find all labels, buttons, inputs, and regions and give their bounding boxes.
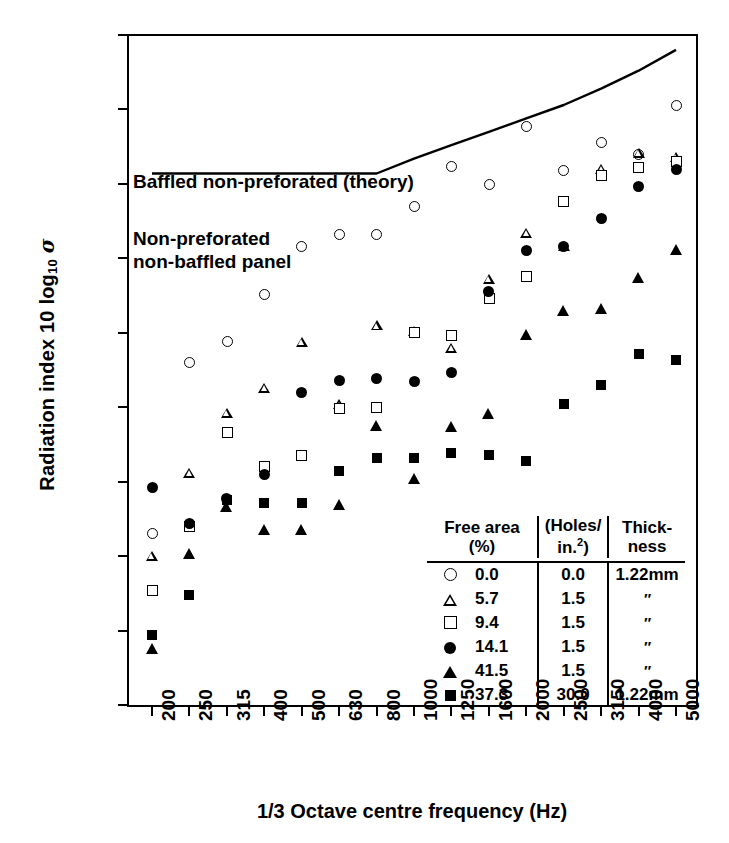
x-tick-500 bbox=[301, 705, 303, 716]
legend-row[interactable]: 5.71.5″ bbox=[427, 587, 685, 611]
data-point-0.0-2000 bbox=[521, 121, 532, 132]
data-point-37.3-5000 bbox=[671, 355, 681, 365]
data-point-37.3-250 bbox=[184, 590, 194, 600]
data-point-0.0-1000 bbox=[409, 201, 420, 212]
legend-free-area-value: 41.5 bbox=[473, 659, 538, 683]
data-point-5.7-1250 bbox=[445, 343, 457, 353]
y-tick--10 bbox=[118, 34, 129, 36]
legend-row[interactable]: 37.330.01.22mm bbox=[427, 683, 685, 707]
data-point-41.5-3150 bbox=[595, 303, 607, 314]
data-point-37.3-2000 bbox=[521, 456, 531, 466]
legend-free-area-value: 37.3 bbox=[473, 683, 538, 707]
data-point-37.3-500 bbox=[297, 498, 307, 508]
open-triangle-icon bbox=[443, 594, 457, 606]
data-point-37.3-3150 bbox=[596, 380, 606, 390]
x-tick-label-500: 500 bbox=[308, 689, 330, 721]
figure-root: Radiation index 10 log10 σ Baffled non-p… bbox=[0, 0, 729, 843]
data-point-9.4-2500 bbox=[558, 196, 569, 207]
data-point-14.1-630 bbox=[334, 375, 345, 386]
x-tick-800 bbox=[376, 705, 378, 716]
data-point-5.7-1600 bbox=[483, 274, 495, 284]
legend-row[interactable]: 9.41.5″ bbox=[427, 611, 685, 635]
annotation-theory: Baffled non-preforated (theory) bbox=[133, 171, 414, 192]
legend-row[interactable]: 0.00.01.22mm bbox=[427, 562, 685, 587]
legend-free-area-value: 5.7 bbox=[473, 587, 538, 611]
data-point-14.1-1000 bbox=[409, 376, 420, 387]
data-point-37.3-800 bbox=[372, 453, 382, 463]
x-tick-label-400: 400 bbox=[270, 689, 292, 721]
legend-thickness-value: ″ bbox=[608, 611, 685, 635]
annotation-panel-line2: non-baffled panel bbox=[133, 251, 291, 272]
data-point-37.3-4000 bbox=[634, 349, 644, 359]
legend-holes-value: 0.0 bbox=[538, 562, 608, 587]
legend-holes-value: 1.5 bbox=[538, 587, 608, 611]
data-point-9.4-4000 bbox=[633, 162, 644, 173]
data-point-9.4-1000 bbox=[409, 327, 420, 338]
filled-square-icon bbox=[445, 690, 456, 701]
data-point-41.5-5000 bbox=[670, 244, 682, 255]
data-point-14.1-250 bbox=[184, 518, 195, 529]
legend-marker-open-triangle bbox=[427, 587, 473, 611]
data-point-41.5-500 bbox=[295, 524, 307, 535]
data-point-14.1-400 bbox=[259, 469, 270, 480]
legend-thickness-value: ″ bbox=[608, 635, 685, 659]
x-tick-630 bbox=[338, 705, 340, 716]
data-point-41.5-1000 bbox=[408, 473, 420, 484]
y-tick--15 bbox=[118, 108, 129, 110]
legend-header-free-area-line1: Free area bbox=[427, 518, 537, 538]
legend-body: 0.00.01.22mm5.71.5″9.41.5″14.11.5″41.51.… bbox=[427, 562, 685, 707]
legend-holes-value: 1.5 bbox=[538, 611, 608, 635]
y-tick--50 bbox=[118, 630, 129, 632]
x-tick-label-800: 800 bbox=[383, 689, 405, 721]
y-axis-label: Radiation index 10 log10 σ bbox=[35, 65, 60, 665]
data-point-5.7-250 bbox=[183, 468, 195, 478]
x-tick-315 bbox=[226, 705, 228, 716]
data-point-0.0-315 bbox=[222, 336, 233, 347]
data-point-9.4-200 bbox=[147, 585, 158, 596]
data-point-5.7-500 bbox=[296, 337, 308, 347]
legend-header-thickness-line1: Thick- bbox=[609, 518, 685, 538]
y-tick--20 bbox=[118, 183, 129, 185]
legend-header-thickness: Thick- ness bbox=[608, 516, 685, 558]
data-point-0.0-1600 bbox=[484, 179, 495, 190]
data-point-37.3-1250 bbox=[446, 448, 456, 458]
legend-header-free-area-line2: (%) bbox=[427, 537, 537, 557]
data-point-37.3-2500 bbox=[559, 399, 569, 409]
legend-row[interactable]: 41.51.5″ bbox=[427, 659, 685, 683]
x-tick-label-630: 630 bbox=[345, 689, 367, 721]
y-axis-label-text: Radiation index 10 log bbox=[36, 274, 58, 491]
data-point-9.4-630 bbox=[334, 403, 345, 414]
legend-holes-value: 1.5 bbox=[538, 635, 608, 659]
data-point-14.1-1600 bbox=[483, 286, 494, 297]
data-point-41.5-1250 bbox=[445, 421, 457, 432]
x-axis-label: 1/3 Octave centre frequency (Hz) bbox=[127, 800, 697, 823]
data-point-0.0-400 bbox=[259, 289, 270, 300]
legend-free-area-value: 14.1 bbox=[473, 635, 538, 659]
data-point-41.5-1600 bbox=[482, 408, 494, 419]
data-point-5.7-400 bbox=[258, 383, 270, 393]
data-point-9.4-1250 bbox=[446, 330, 457, 341]
data-point-37.3-200 bbox=[147, 630, 157, 640]
data-point-9.4-315 bbox=[222, 427, 233, 438]
legend-header-holes-line2: in.2) bbox=[539, 536, 607, 557]
y-tick--30 bbox=[118, 332, 129, 334]
data-point-41.5-400 bbox=[258, 524, 270, 535]
data-point-41.5-800 bbox=[370, 420, 382, 431]
data-point-41.5-2000 bbox=[520, 329, 532, 340]
legend-header-free-area: Free area (%) bbox=[427, 516, 538, 558]
data-point-0.0-5000 bbox=[671, 100, 682, 111]
legend-marker-filled-square bbox=[427, 683, 473, 707]
legend-marker-filled-triangle bbox=[427, 659, 473, 683]
legend-marker-open-square bbox=[427, 611, 473, 635]
legend-holes-value: 1.5 bbox=[538, 659, 608, 683]
y-axis-label-subscript: 10 bbox=[45, 259, 60, 274]
legend-marker-open-circle bbox=[427, 562, 473, 587]
legend-header-row: Free area (%) (Holes/ in.2) Thick- ness bbox=[427, 516, 685, 558]
data-point-5.7-4000 bbox=[633, 148, 645, 158]
y-tick--35 bbox=[118, 406, 129, 408]
data-point-5.7-800 bbox=[371, 320, 383, 330]
data-point-37.3-1600 bbox=[484, 450, 494, 460]
legend-row[interactable]: 14.11.5″ bbox=[427, 635, 685, 659]
legend-thickness-value: ″ bbox=[608, 587, 685, 611]
legend-thickness-value: 1.22mm bbox=[608, 683, 685, 707]
